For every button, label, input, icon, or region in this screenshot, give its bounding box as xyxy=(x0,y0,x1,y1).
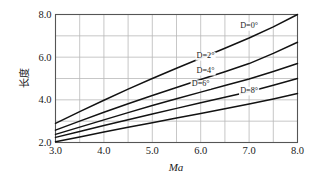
x-tick-label: 8.0 xyxy=(291,145,304,156)
y-tick-label: 6.0 xyxy=(38,52,51,63)
curve-label: D=2° xyxy=(197,51,215,60)
x-axis-tick-labels: 3.04.05.06.07.08.0 xyxy=(49,145,304,156)
y-tick-label: 4.0 xyxy=(38,94,51,105)
y-tick-label: 8.0 xyxy=(38,9,51,20)
y-axis-title: 长度 xyxy=(18,68,30,88)
x-tick-label: 6.0 xyxy=(194,145,207,156)
chart-canvas: D=0°D=2°D=4°D=6°D=8° 3.04.05.06.07.08.0 … xyxy=(0,0,322,178)
x-tick-label: 5.0 xyxy=(146,145,159,156)
curve-label: D=8° xyxy=(240,86,258,95)
x-axis-title: Ma xyxy=(168,161,184,173)
y-axis-tick-labels: 2.04.06.08.0 xyxy=(38,9,51,148)
y-tick-label: 2.0 xyxy=(38,137,51,148)
curve-label: D=4° xyxy=(197,66,215,75)
chart-figure: D=0°D=2°D=4°D=6°D=8° 3.04.05.06.07.08.0 … xyxy=(0,0,322,178)
curve-label: D=6° xyxy=(192,79,210,88)
curve-label: D=0° xyxy=(240,21,258,30)
x-tick-label: 4.0 xyxy=(97,145,110,156)
x-tick-label: 7.0 xyxy=(243,145,256,156)
